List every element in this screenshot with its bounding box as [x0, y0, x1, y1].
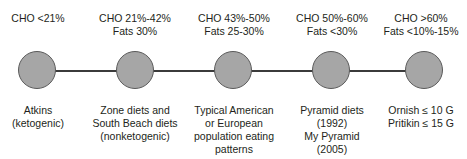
continuum-node-4	[312, 51, 350, 89]
top-label-2-line-2: Fats 30%	[78, 25, 192, 38]
bottom-label-2: Zone diets and South Beach diets (nonket…	[78, 104, 192, 143]
continuum-node-2	[116, 51, 154, 89]
bottom-label-5: Ornish ≤ 10 G Pritikin ≤ 15 G	[375, 104, 467, 130]
continuum-node-1	[18, 51, 56, 89]
top-label-3: CHO 43%-50% Fats 25-30%	[183, 12, 285, 38]
top-label-1-line-1: CHO <21%	[0, 12, 76, 25]
continuum-node-3	[214, 51, 252, 89]
bottom-label-1-line-1: Atkins	[0, 104, 76, 117]
bottom-label-4-line-2: (1992)	[285, 117, 379, 130]
bottom-label-5-line-2: Pritikin ≤ 15 G	[375, 117, 467, 130]
bottom-label-3-line-1: Typical American	[183, 104, 285, 117]
top-label-2-line-1: CHO 21%-42%	[78, 12, 192, 25]
bottom-label-4-line-3: My Pyramid	[285, 130, 379, 143]
bottom-label-3-line-3: population eating	[183, 130, 285, 143]
top-label-5-line-1: CHO >60%	[375, 12, 467, 25]
bottom-label-3-line-4: patterns	[183, 143, 285, 156]
bottom-label-1: Atkins (ketogenic)	[0, 104, 76, 130]
bottom-label-4-line-1: Pyramid diets	[285, 104, 379, 117]
bottom-label-3-line-2: or European	[183, 117, 285, 130]
bottom-label-3: Typical American or European population …	[183, 104, 285, 156]
top-label-2: CHO 21%-42% Fats 30%	[78, 12, 192, 38]
top-label-3-line-2: Fats 25-30%	[183, 25, 285, 38]
bottom-label-2-line-1: Zone diets and	[78, 104, 192, 117]
bottom-label-5-line-1: Ornish ≤ 10 G	[375, 104, 467, 117]
bottom-label-1-line-2: (ketogenic)	[0, 117, 76, 130]
bottom-label-2-line-2: South Beach diets	[78, 117, 192, 130]
top-label-3-line-1: CHO 43%-50%	[183, 12, 285, 25]
top-label-1: CHO <21%	[0, 12, 76, 25]
top-label-5: CHO >60% Fats <10%-15%	[375, 12, 467, 38]
top-label-4: CHO 50%-60% Fats <30%	[285, 12, 379, 38]
top-label-4-line-2: Fats <30%	[285, 25, 379, 38]
bottom-label-4: Pyramid diets (1992) My Pyramid (2005)	[285, 104, 379, 156]
bottom-label-2-line-3: (nonketogenic)	[78, 130, 192, 143]
top-label-4-line-1: CHO 50%-60%	[285, 12, 379, 25]
continuum-node-5	[405, 51, 443, 89]
diet-continuum-figure: CHO <21% CHO 21%-42% Fats 30% CHO 43%-50…	[0, 0, 467, 159]
top-label-5-line-2: Fats <10%-15%	[375, 25, 467, 38]
bottom-label-4-line-4: (2005)	[285, 143, 379, 156]
